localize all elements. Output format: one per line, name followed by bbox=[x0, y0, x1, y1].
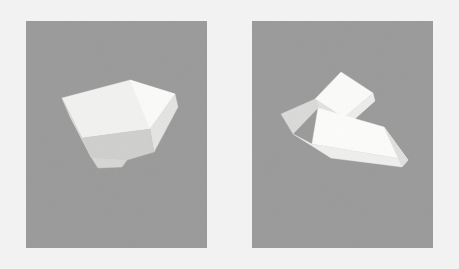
right-panel-shape-canvas bbox=[252, 21, 433, 248]
folded-wing-polyhedron[interactable] bbox=[281, 72, 408, 167]
right-panel[interactable] bbox=[252, 21, 433, 248]
truncated-wedge-polyhedron[interactable] bbox=[62, 80, 178, 168]
left-panel-shape-canvas bbox=[26, 21, 207, 248]
left-panel[interactable] bbox=[26, 21, 207, 248]
right-panel-viewport bbox=[252, 21, 433, 248]
left-tip-face bbox=[281, 99, 318, 134]
figure-root bbox=[0, 0, 459, 269]
left-panel-viewport bbox=[26, 21, 207, 248]
